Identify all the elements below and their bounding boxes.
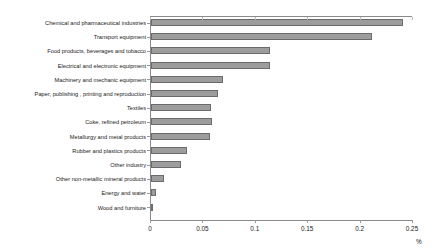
x-tick-label: 0 xyxy=(130,224,170,233)
x-axis-ticks-container: 00.050.10.150.20.25 xyxy=(0,0,448,249)
x-tick-label: 0.1 xyxy=(235,224,275,233)
x-tick-mark xyxy=(360,220,361,223)
x-tick-label: 0.25 xyxy=(392,224,432,233)
x-tick-mark-top xyxy=(412,17,413,20)
x-tick-mark-top xyxy=(150,17,151,20)
x-tick-mark xyxy=(150,220,151,223)
x-tick-mark xyxy=(412,220,413,223)
x-tick-label: 0.2 xyxy=(340,224,380,233)
x-tick-mark xyxy=(255,220,256,223)
x-tick-mark-top xyxy=(202,17,203,20)
x-axis-unit-label: % xyxy=(416,237,422,246)
x-tick-mark-top xyxy=(255,17,256,20)
x-tick-label: 0.15 xyxy=(287,224,327,233)
x-tick-mark-top xyxy=(360,17,361,20)
x-tick-mark-top xyxy=(307,17,308,20)
horizontal-bar-chart: Chemical and pharmaceutical industriesTr… xyxy=(0,0,448,249)
x-tick-label: 0.05 xyxy=(182,224,222,233)
x-tick-mark xyxy=(202,220,203,223)
x-tick-mark xyxy=(307,220,308,223)
